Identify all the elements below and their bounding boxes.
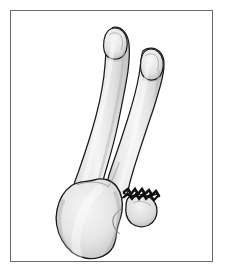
figure-container: Anatomical bone illustration Phalanges a… (0, 0, 228, 275)
bone-illustration (11, 11, 214, 263)
figure-frame: Anatomical bone illustration Phalanges a… (10, 10, 213, 262)
metatarsal-base-large (56, 179, 122, 259)
